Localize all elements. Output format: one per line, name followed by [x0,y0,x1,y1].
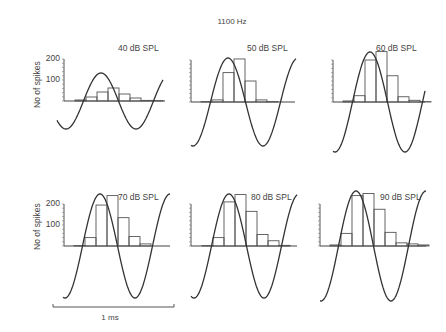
panel-label: 80 dB SPL [251,192,292,202]
scale-bar-label: 1 ms [101,313,118,322]
histogram-bar [129,237,140,246]
panel-6: 90 dB SPL [318,191,429,301]
histogram-bar [385,232,396,246]
histogram-bar [256,100,267,102]
tick-label-200: 200 [46,53,60,63]
figure-title: 1100 Hz [217,17,246,26]
histogram-bar [341,233,352,246]
panel-label: 70 dB SPL [118,192,159,202]
histogram-bar [279,245,290,246]
tick-label-100: 100 [46,74,60,84]
panel-label: 60 dB SPL [376,43,417,53]
histogram-bar [374,209,385,246]
histogram-bar [212,100,223,102]
histogram-bar [118,218,129,246]
histogram-bar [245,81,256,102]
histogram-bar [97,92,108,101]
panel-label: 90 dB SPL [380,192,421,202]
histogram-bar [130,98,141,101]
panel-5: 80 dB SPL [189,192,297,298]
histogram-bar [365,60,376,102]
tick-label-200: 200 [46,198,60,208]
histogram-bar [213,238,224,246]
y-axis-label-top: No of spikes [32,61,42,108]
histogram-bar [85,238,96,246]
panel-label: 50 dB SPL [247,43,288,53]
panel-label: 40 dB SPL [118,43,159,53]
histogram-bar [409,100,420,102]
tick-label-100: 100 [46,219,60,229]
panel-1: 40 dB SPL200100 [46,43,165,129]
panel-2: 50 dB SPL [189,43,296,146]
histogram-bar [224,202,235,246]
time-scale-bar [53,304,174,307]
histogram-bar [398,97,409,102]
histogram-bar [257,234,268,246]
panel-3: 60 dB SPL [331,43,431,152]
figure: 1100 Hz No of spikes No of spikes 40 dB … [0,0,446,332]
histogram-bar [140,244,151,246]
histogram-bar [354,96,365,102]
histogram-bar [246,211,257,246]
histogram-bar [223,73,234,102]
histogram-bar [141,100,152,101]
histogram-bar [268,241,279,246]
y-axis-label-bottom: No of spikes [32,203,42,250]
histogram-bar [352,196,363,246]
histogram-bar [96,205,107,246]
panel-4: 70 dB SPL200100 [46,192,170,298]
histogram-bar [387,76,398,102]
histogram-bar [119,94,130,101]
